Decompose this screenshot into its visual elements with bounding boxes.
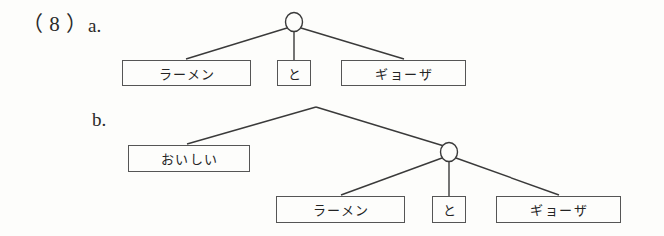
tree-b-leaf-box-to: と [432,196,466,223]
tree-a-branch-left [186,28,287,59]
syntax-tree-figure: （ 8 ） a. b. ラーメン と ギョーザ おいしい ラーメン と ギョーザ [0,0,664,236]
tree-a-leaf-box-to: と [277,60,311,86]
tree-b-item-label: b. [92,110,106,129]
tree-a-leaf-box-ramen: ラーメン [122,60,251,86]
tree-b-branch-left [187,107,316,144]
tree-b-leaf-box-oishii: おいしい [128,145,250,172]
example-number: （ 8 ） [22,14,88,35]
tree-b-leaf-box-gyoza: ギョーザ [496,196,621,223]
tree-b-inner-branch-left [341,158,442,195]
tree-a-root-node [286,13,303,32]
tree-b-inner-node [441,143,458,162]
tree-b-leaf-box-ramen: ラーメン [276,196,405,223]
tree-a-branch-right [301,28,404,59]
tree-a-leaf-box-gyoza: ギョーザ [341,60,466,86]
tree-a-branches [186,28,404,60]
tree-b-branch-right [316,107,444,146]
tree-b-inner-branch-right [456,158,559,195]
tree-a-item-label: a. [88,16,101,35]
